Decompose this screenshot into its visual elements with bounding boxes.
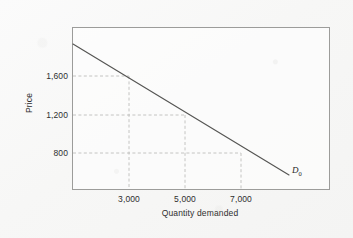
x-tick-label-5000: 5,000 bbox=[163, 194, 207, 204]
demand-curve-figure: 1,600 1,200 800 3,000 5,000 7,000 Price … bbox=[0, 0, 353, 238]
demand-curve-line bbox=[73, 44, 289, 175]
x-axis-title: Quantity demanded bbox=[130, 208, 270, 218]
gridline-group-1600 bbox=[73, 76, 129, 189]
y-axis-title: Price bbox=[24, 88, 34, 118]
gridline-group-800 bbox=[73, 153, 241, 189]
demand-curve-label-subscript: 0 bbox=[299, 170, 302, 177]
y-tick-label-800: 800 bbox=[28, 148, 68, 158]
demand-curve-label: D0 bbox=[292, 165, 302, 177]
y-tick-label-1200: 1,200 bbox=[28, 110, 68, 120]
x-tick-label-7000: 7,000 bbox=[219, 194, 263, 204]
x-tick-label-3000: 3,000 bbox=[107, 194, 151, 204]
y-tick-label-1600: 1,600 bbox=[28, 71, 68, 81]
